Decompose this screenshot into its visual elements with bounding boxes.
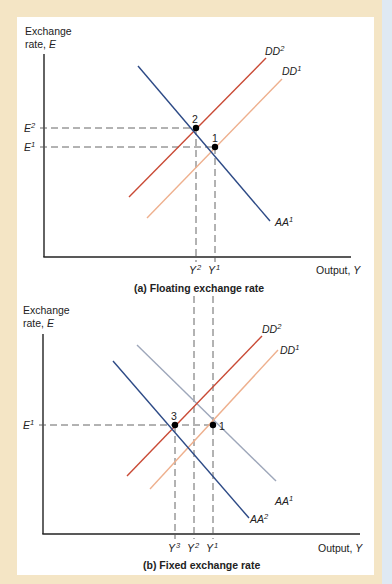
aa1-label-b: AA1 — [274, 494, 293, 507]
caption-b: (b) Fixed exchange rate — [143, 559, 260, 571]
caption-a: (a) Floating exchange rate — [134, 282, 264, 294]
equilibrium-point-2 — [193, 125, 199, 131]
figure-svg: Exchange rate, E 2 1 DD2 DD1 AA1 E2 E1 Y… — [0, 0, 392, 584]
dd1-label: DD1 — [282, 64, 301, 77]
guide-lines-b — [39, 296, 213, 539]
y-tick-e1: E1 — [24, 140, 35, 153]
x-axis-label: Output, Y — [316, 264, 361, 276]
dd1-curve-b — [150, 350, 278, 489]
chart-a: Exchange rate, E 2 1 DD2 DD1 AA1 E2 E1 Y… — [24, 25, 361, 294]
aa2-curve-b — [113, 361, 249, 518]
dd1-label-b: DD1 — [280, 343, 299, 356]
y-axis-label-line2-b: rate, E — [23, 317, 55, 329]
y-tick-e2: E2 — [24, 121, 36, 134]
equilibrium-point-1 — [212, 144, 218, 150]
dd2-label: DD2 — [265, 44, 285, 57]
point-label-1-b: 1 — [219, 420, 225, 432]
x-axis-label-b: Output, Y — [318, 542, 363, 554]
y-tick-e1-b: E1 — [23, 418, 34, 431]
y-axis-label-line2: rate, E — [25, 38, 57, 50]
aa2-label-b: AA2 — [249, 512, 269, 525]
x-tick-y2: Y2 — [189, 263, 202, 276]
chart-b: Exchange rate, E 3 1 DD2 DD1 AA1 AA2 E1 … — [23, 296, 363, 571]
dd2-label-b: DD2 — [262, 322, 282, 335]
guide-lines — [40, 128, 215, 262]
aa1-label: AA1 — [274, 215, 293, 228]
y-axis-label-line1: Exchange — [25, 25, 72, 37]
point-label-1: 1 — [212, 132, 218, 144]
x-tick-y1: Y1 — [208, 263, 220, 276]
y-axis-label-line1-b: Exchange — [23, 304, 70, 316]
aa1-curve — [138, 66, 270, 221]
x-tick-y1-b: Y1 — [206, 541, 218, 554]
equilibrium-point-3 — [172, 422, 178, 428]
x-tick-y2-b: Y2 — [187, 541, 200, 554]
point-label-2: 2 — [192, 113, 198, 125]
point-label-3: 3 — [171, 410, 177, 422]
equilibrium-point-1-b — [210, 422, 216, 428]
x-tick-y3: Y3 — [168, 541, 181, 554]
